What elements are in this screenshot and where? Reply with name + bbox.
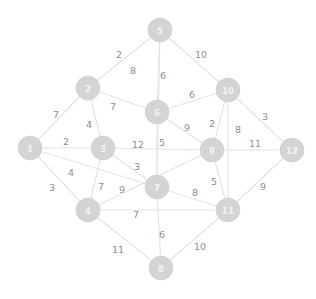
graph-node[interactable]: 11 <box>216 198 240 222</box>
node-circle[interactable] <box>200 138 224 162</box>
graph-svg: 286107472347123695283115867111099 123456… <box>0 0 316 299</box>
edge-weight-label: 9 <box>184 122 190 133</box>
edge-weight-label: 6 <box>160 70 166 81</box>
graph-edge[interactable] <box>161 210 228 268</box>
edge-weight-label: 7 <box>133 209 139 220</box>
edge-weight-label: 2 <box>116 49 122 60</box>
edge-weight-label: 12 <box>132 139 144 150</box>
graph-edge[interactable] <box>88 30 160 88</box>
node-circle[interactable] <box>91 136 115 160</box>
graph-node[interactable]: 2 <box>76 76 100 100</box>
edge-weight-label: 10 <box>195 49 207 60</box>
graph-node[interactable]: 9 <box>200 138 224 162</box>
edge-weight-label: 2 <box>63 136 69 147</box>
edge-weight-label: 9 <box>260 181 266 192</box>
node-circle[interactable] <box>216 198 240 222</box>
node-circle[interactable] <box>149 256 173 280</box>
graph-node[interactable]: 10 <box>216 78 240 102</box>
edge-weight-label: 4 <box>68 167 74 178</box>
graph-node[interactable]: 8 <box>149 256 173 280</box>
edge-weight-label: 5 <box>211 176 217 187</box>
node-circle[interactable] <box>145 100 169 124</box>
node-circle[interactable] <box>280 138 304 162</box>
edge-weight-label: 8 <box>235 124 241 135</box>
graph-edge[interactable] <box>88 210 161 268</box>
node-circle[interactable] <box>76 76 100 100</box>
edge-weight-label: 11 <box>112 244 124 255</box>
edge-weight-label: 3 <box>49 182 55 193</box>
node-circle[interactable] <box>18 136 42 160</box>
graph-node[interactable]: 1 <box>18 136 42 160</box>
graph-node[interactable]: 7 <box>145 175 169 199</box>
edge-weight-label: 6 <box>189 89 195 100</box>
edge-weight-label: 2 <box>209 118 215 129</box>
edge-weight-label: 5 <box>159 137 165 148</box>
edge-weight-label: 7 <box>53 109 59 120</box>
edge-weight-label: 4 <box>86 119 92 130</box>
edge-weight-label: 8 <box>130 65 136 76</box>
node-circle[interactable] <box>76 198 100 222</box>
graph-node[interactable]: 12 <box>280 138 304 162</box>
graph-edge[interactable] <box>160 30 228 90</box>
node-circle[interactable] <box>148 18 172 42</box>
graph-node[interactable]: 6 <box>145 100 169 124</box>
graph-canvas: 286107472347123695283115867111099 123456… <box>0 0 316 299</box>
graph-node[interactable]: 4 <box>76 198 100 222</box>
edge-weight-label: 7 <box>110 101 116 112</box>
edge-weight-label: 10 <box>194 241 206 252</box>
edge-weight-label: 7 <box>98 181 104 192</box>
edge-weight-label: 6 <box>159 229 165 240</box>
edge-weight-label: 8 <box>192 187 198 198</box>
graph-node[interactable]: 5 <box>148 18 172 42</box>
edge-weight-label: 9 <box>119 184 125 195</box>
node-circle[interactable] <box>216 78 240 102</box>
graph-node[interactable]: 3 <box>91 136 115 160</box>
edge-weight-label: 3 <box>262 111 268 122</box>
node-circle[interactable] <box>145 175 169 199</box>
edge-weight-label: 11 <box>249 138 261 149</box>
edge-weight-label: 3 <box>134 161 140 172</box>
